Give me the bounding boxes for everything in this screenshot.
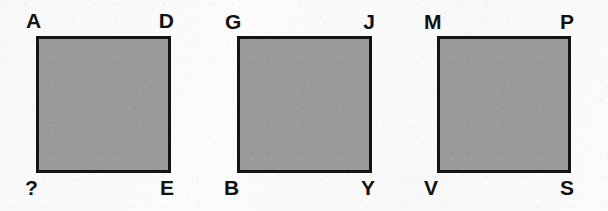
label-square-1-bottom-left: ? [25, 177, 38, 198]
square-shape-3[interactable] [437, 36, 571, 173]
puzzle-canvas: A D ? E G J B Y M P V S [0, 0, 608, 211]
label-square-2-top-right: J [342, 11, 375, 32]
label-square-3-bottom-left: V [424, 177, 438, 198]
label-square-2-bottom-left: B [224, 177, 239, 198]
figure-square-1: A D ? E [0, 0, 200, 211]
square-shape-1[interactable] [36, 36, 171, 173]
label-square-2-top-left: G [225, 11, 241, 32]
label-square-3-top-right: P [540, 11, 574, 32]
label-square-3-bottom-right: S [540, 177, 574, 198]
label-square-3-top-left: M [424, 11, 442, 32]
figure-square-2: G J B Y [200, 0, 400, 211]
square-shape-2[interactable] [237, 36, 372, 173]
label-square-1-bottom-right: E [140, 177, 174, 198]
label-square-1-top-left: A [26, 10, 41, 31]
label-square-2-bottom-right: Y [342, 177, 375, 198]
figure-square-3: M P V S [400, 0, 608, 211]
label-square-1-top-right: D [140, 10, 174, 31]
